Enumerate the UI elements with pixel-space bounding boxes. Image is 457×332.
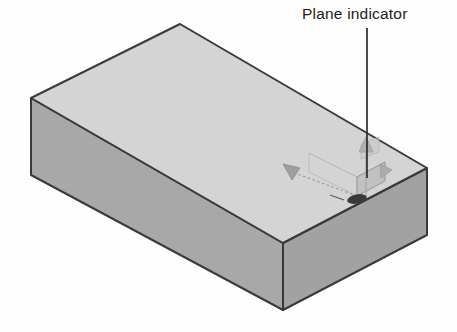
illustration-canvas: Plane indicator: [0, 0, 457, 332]
illustration-svg: [0, 0, 457, 332]
plane-indicator-label: Plane indicator: [302, 5, 408, 23]
